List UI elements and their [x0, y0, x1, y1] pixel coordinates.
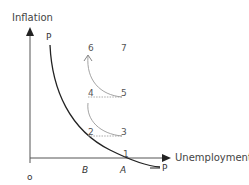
- curve-label-top: P: [46, 33, 51, 42]
- x-marker-a: A: [120, 166, 126, 175]
- point-2: 2: [88, 128, 94, 137]
- point-1: 1: [123, 150, 129, 159]
- point-4: 4: [88, 89, 94, 98]
- y-axis-label: Inflation: [12, 13, 53, 23]
- x-axis-arrow-icon: [162, 154, 171, 162]
- point-6: 6: [88, 44, 94, 53]
- point-7: 7: [121, 44, 127, 53]
- point-5: 5: [121, 89, 127, 98]
- origin-label: o: [27, 173, 33, 182]
- x-marker-b: B: [82, 166, 88, 175]
- point-3: 3: [121, 128, 127, 137]
- curve-label-bottom: P: [162, 164, 167, 173]
- phillips-curve: [50, 45, 160, 167]
- y-axis-arrow-icon: [26, 27, 34, 36]
- x-axis-label: Unemployment: [175, 153, 249, 163]
